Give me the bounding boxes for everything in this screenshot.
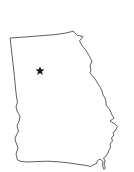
speckle-dot [92, 62, 94, 64]
state-border-outline [11, 31, 118, 169]
map-canvas [0, 0, 134, 172]
state-outline-map [0, 0, 134, 172]
